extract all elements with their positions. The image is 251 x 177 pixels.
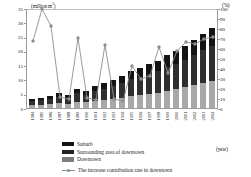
- x-axis-tick-label: 1999: [165, 112, 170, 120]
- line-data-point: [166, 71, 169, 74]
- left-axis-tick-label: 25: [7, 35, 23, 40]
- line-data-point: [94, 98, 97, 101]
- legend-item-label: Suburb: [77, 141, 93, 148]
- right-axis-tick-label: 70: [220, 37, 238, 42]
- x-axis-tick-label: 1986: [48, 112, 53, 120]
- legend-item-label: Downtown: [77, 156, 101, 163]
- legend-item: Downtown: [62, 156, 172, 163]
- plot-area: [26, 9, 218, 109]
- right-axis-tick-label: 100: [220, 7, 238, 12]
- x-axis-tick-label: 2003: [201, 112, 206, 120]
- x-axis-tick-label: 1998: [156, 112, 161, 120]
- x-axis-tick-label: 2001: [183, 112, 188, 120]
- right-axis-tick-label: 30: [220, 77, 238, 82]
- legend: SuburbSurrounding area of downtownDownto…: [62, 141, 172, 174]
- x-axis-tick-label: 1985: [39, 112, 44, 120]
- right-axis-tick-label: 20: [220, 87, 238, 92]
- line-data-point: [148, 74, 151, 77]
- left-axis-tick-label: 5: [7, 92, 23, 97]
- left-axis-unit-label: (million m3): [31, 2, 55, 9]
- line-data-point: [130, 64, 133, 67]
- right-axis-tick-label: 10: [220, 97, 238, 102]
- line-data-point: [112, 97, 115, 100]
- line-data-point: [58, 95, 61, 98]
- legend-swatch-list: SuburbSurrounding area of downtownDownto…: [62, 141, 172, 163]
- line-data-point: [175, 49, 178, 52]
- line-data-point: [40, 7, 43, 10]
- line-data-point: [85, 96, 88, 99]
- x-axis-tick-label: 2000: [174, 112, 179, 120]
- x-axis-tick-label: 1987: [57, 112, 62, 120]
- legend-swatch-icon: [62, 157, 74, 161]
- legend-swatch-icon: [62, 150, 74, 154]
- left-axis-tick-label: 10: [7, 78, 23, 83]
- line-marker-icon: [62, 168, 75, 173]
- x-axis-tick-label: 1994: [120, 112, 125, 120]
- line-data-point: [157, 45, 160, 48]
- right-axis-tick-label: 50: [220, 57, 238, 62]
- right-axis-tick-label: 0: [220, 107, 238, 112]
- line-data-point: [121, 99, 124, 102]
- x-axis-tick-label: 1989: [75, 112, 80, 120]
- right-axis-tick-mark: [218, 109, 220, 110]
- right-axis-tick-label: 40: [220, 67, 238, 72]
- x-axis-tick-label: 1991: [93, 112, 98, 120]
- left-axis-tick-mark: [24, 109, 26, 110]
- line-data-point: [103, 43, 106, 46]
- chart-figure: (million m3) (%) (year) 35302520151050 1…: [0, 0, 251, 177]
- line-data-point: [202, 37, 205, 40]
- legend-swatch-icon: [62, 142, 74, 146]
- legend-line-entry: The increase contribution rate in downto…: [62, 167, 172, 174]
- line-data-point: [76, 36, 79, 39]
- right-axis-tick-label: 80: [220, 27, 238, 32]
- line-data-point: [31, 39, 34, 42]
- x-axis-tick-label: 2002: [192, 112, 197, 120]
- x-axis-tick-label: 1992: [102, 112, 107, 120]
- legend-item: Suburb: [62, 141, 172, 148]
- x-axis-tick-label: 1988: [66, 112, 71, 120]
- right-axis-tick-label: 90: [220, 17, 238, 22]
- line-series-path: [33, 9, 213, 101]
- x-axis-tick-label: 1993: [111, 112, 116, 120]
- line-data-point: [184, 40, 187, 43]
- right-axis-tick-label: 60: [220, 47, 238, 52]
- left-axis-tick-label: 35: [7, 7, 23, 12]
- x-axis-tick-label: 1984: [30, 112, 35, 120]
- x-axis-unit-label: (year): [216, 146, 228, 152]
- legend-item-label: Surrounding area of downtown: [77, 149, 144, 156]
- line-data-point: [67, 97, 70, 100]
- line-series-layer: [27, 9, 219, 109]
- line-data-point: [49, 24, 52, 27]
- line-data-point: [211, 35, 214, 38]
- left-axis-tick-label: 0: [7, 107, 23, 112]
- x-axis-tick-label: 1990: [84, 112, 89, 120]
- x-axis-tick-label: 1995: [129, 112, 134, 120]
- x-axis-tick-label: 1997: [147, 112, 152, 120]
- left-axis-tick-label: 15: [7, 64, 23, 69]
- legend-line-label: The increase contribution rate in downto…: [78, 167, 172, 174]
- left-axis-tick-label: 20: [7, 49, 23, 54]
- legend-item: Surrounding area of downtown: [62, 149, 172, 156]
- line-data-point: [139, 77, 142, 80]
- left-axis-tick-label: 30: [7, 21, 23, 26]
- x-axis-tick-label: 2004: [210, 112, 215, 120]
- line-data-point: [193, 42, 196, 45]
- x-axis-tick-label: 1996: [138, 112, 143, 120]
